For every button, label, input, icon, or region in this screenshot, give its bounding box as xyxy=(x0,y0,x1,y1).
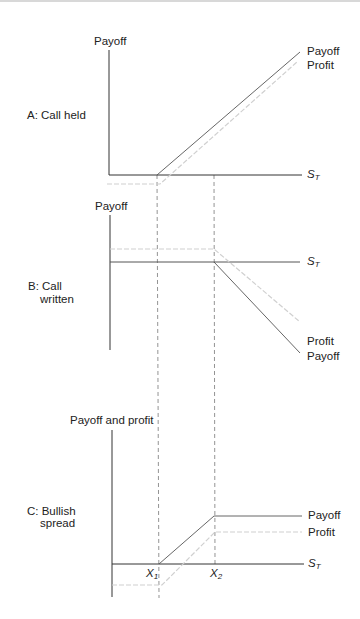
panel-c-title-line2: spread xyxy=(40,517,75,530)
panel-c-y-axis-label: Payoff and profit xyxy=(70,414,154,427)
panel-b-title-line1: B: Call xyxy=(28,280,62,293)
x2-letter: X xyxy=(210,567,218,579)
st-label: S xyxy=(307,168,315,180)
st-label: S xyxy=(308,557,316,569)
panel-a-title: A: Call held xyxy=(27,109,86,122)
panel-c-payoff-line xyxy=(159,516,302,564)
x1-label: X1 xyxy=(146,567,158,583)
panel-c-x-axis-label: ST xyxy=(308,557,321,573)
x1-letter: X xyxy=(146,567,154,579)
st-label: S xyxy=(307,255,315,267)
panel-b-title-line2: written xyxy=(40,293,74,306)
st-sub: T xyxy=(316,562,321,571)
x2-sub: 2 xyxy=(218,572,222,581)
panel-a-profit-line xyxy=(107,62,297,184)
panel-c-payoff-label: Payoff xyxy=(308,509,340,522)
panel-b-profit-label: Profit xyxy=(307,335,334,348)
st-sub: T xyxy=(315,173,320,182)
x2-label: X2 xyxy=(210,567,222,583)
panel-b-y-axis-label: Payoff xyxy=(95,200,127,213)
panel-b-profit-line xyxy=(110,249,300,322)
st-sub: T xyxy=(315,260,320,269)
panel-a-y-axis-label: Payoff xyxy=(94,35,126,48)
panel-a-profit-label: Profit xyxy=(307,59,334,72)
x2-guide-line xyxy=(214,175,215,564)
panel-c-profit-label: Profit xyxy=(308,526,335,539)
panel-a-payoff-line xyxy=(157,52,300,175)
x1-guide-line xyxy=(157,175,159,598)
panel-a-x-axis-label: ST xyxy=(307,168,320,184)
panel-a-payoff-label: Payoff xyxy=(307,45,339,58)
panel-c-profit-line xyxy=(112,532,302,585)
panel-b-payoff-label: Payoff xyxy=(307,350,339,363)
panel-b-payoff-line xyxy=(214,262,300,353)
panel-b-x-axis-label: ST xyxy=(307,255,320,271)
x1-sub: 1 xyxy=(154,572,158,581)
